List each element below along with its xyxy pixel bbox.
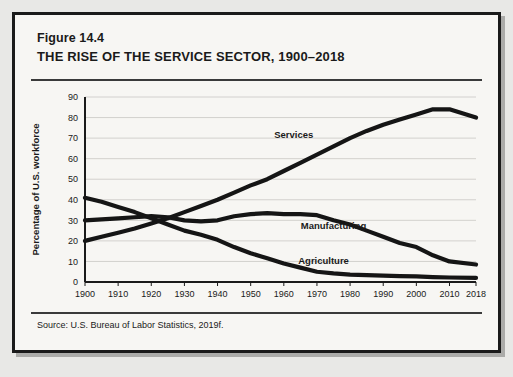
footer-divider [31, 312, 482, 314]
x-tick-label: 1950 [241, 289, 261, 299]
header-divider [31, 79, 482, 81]
gridlines [85, 97, 476, 261]
y-tick-label: 60 [68, 154, 78, 164]
x-tick-label: 1910 [108, 289, 128, 299]
x-tick-label: 1960 [274, 289, 294, 299]
y-tick-label: 10 [68, 257, 78, 267]
chart-plot-area: 0102030405060708090 19001910192019301940… [25, 85, 488, 310]
y-tick-label: 50 [68, 174, 78, 184]
x-tick-label: 2000 [406, 289, 426, 299]
x-tick-label: 2018 [466, 289, 486, 299]
y-tick-label: 80 [68, 113, 78, 123]
x-tick-label: 1940 [208, 289, 228, 299]
x-tick-label: 1970 [307, 289, 327, 299]
figure-number: Figure 14.4 [37, 31, 104, 45]
series-label-agriculture: Agriculture [298, 255, 349, 266]
line-chart: 0102030405060708090 19001910192019301940… [25, 85, 488, 310]
axes [85, 97, 476, 282]
x-tick-label: 2010 [439, 289, 459, 299]
x-axis-tick-labels: 1900191019201930194019501960197019801990… [75, 282, 486, 299]
series-label-manufacturing: Manufacturing [301, 220, 367, 231]
figure-card: Figure 14.4 THE RISE OF THE SERVICE SECT… [15, 15, 498, 350]
series-labels: ServicesManufacturingAgriculture [274, 129, 366, 265]
y-tick-label: 90 [68, 92, 78, 102]
y-tick-label: 70 [68, 133, 78, 143]
figure-frame: Figure 14.4 THE RISE OF THE SERVICE SECT… [12, 12, 501, 353]
source-note: Source: U.S. Bureau of Labor Statistics,… [37, 320, 224, 330]
x-tick-label: 1930 [174, 289, 194, 299]
x-tick-label: 1990 [373, 289, 393, 299]
figure-title: THE RISE OF THE SERVICE SECTOR, 1900–201… [37, 49, 345, 64]
x-tick-label: 1980 [340, 289, 360, 299]
y-axis-tick-labels: 0102030405060708090 [68, 92, 78, 287]
series-line-manufacturing [85, 213, 476, 264]
y-axis-title: Percentage of U.S. workforce [30, 124, 41, 256]
x-tick-label: 1900 [75, 289, 95, 299]
series-label-services: Services [274, 129, 313, 140]
y-tick-label: 30 [68, 216, 78, 226]
y-tick-label: 40 [68, 195, 78, 205]
series-line-agriculture [85, 198, 476, 278]
figure-page: Figure 14.4 THE RISE OF THE SERVICE SECT… [0, 0, 513, 377]
y-tick-label: 20 [68, 236, 78, 246]
y-tick-label: 0 [73, 277, 78, 287]
x-tick-label: 1920 [141, 289, 161, 299]
